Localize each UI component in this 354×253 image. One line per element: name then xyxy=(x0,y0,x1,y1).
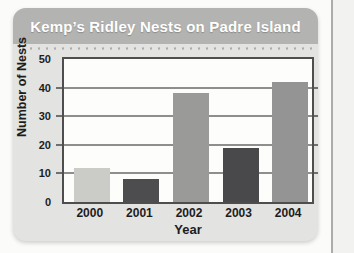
y-tick-label-50: 50 xyxy=(39,53,51,65)
page-edge-line xyxy=(331,0,333,253)
x-tick-label-2000: 2000 xyxy=(76,206,103,220)
bar-2004 xyxy=(272,82,308,202)
tick-right-30 xyxy=(314,115,318,117)
y-tick-label-30: 30 xyxy=(39,110,51,122)
chart-title-bar: Kemp’s Ridley Nests on Padre Island xyxy=(13,8,318,44)
textbook-page: Kemp’s Ridley Nests on Padre Island Numb… xyxy=(0,0,354,253)
x-tick-label-2003: 2003 xyxy=(225,206,252,220)
tick-right-10 xyxy=(314,172,318,174)
x-tick-label-2001: 2001 xyxy=(126,206,153,220)
y-tick-label-40: 40 xyxy=(39,82,51,94)
x-tick-label-2004: 2004 xyxy=(275,206,302,220)
bar-2001 xyxy=(123,179,159,202)
y-tick-label-10: 10 xyxy=(39,167,51,179)
bar-2003 xyxy=(223,148,259,202)
tick-left-20 xyxy=(56,144,62,146)
chart-card: Kemp’s Ridley Nests on Padre Island Numb… xyxy=(13,8,318,241)
chart-title: Kemp’s Ridley Nests on Padre Island xyxy=(30,18,301,35)
tick-right-40 xyxy=(314,87,318,89)
y-tick-label-0: 0 xyxy=(45,196,51,208)
y-axis-tick-labels: 01020304050 xyxy=(13,57,58,204)
page-edge-strip xyxy=(333,0,354,253)
x-axis-tick-labels: 20002001200220032004 xyxy=(62,206,314,221)
dotted-separator xyxy=(19,47,312,50)
y-tick-label-20: 20 xyxy=(39,139,51,151)
tick-left-30 xyxy=(56,115,62,117)
x-tick-label-2002: 2002 xyxy=(176,206,203,220)
x-axis-title: Year xyxy=(62,222,314,237)
tick-left-10 xyxy=(56,172,62,174)
bar-2000 xyxy=(74,168,110,202)
bar-2002 xyxy=(173,93,209,202)
plot-area xyxy=(62,57,314,204)
tick-right-20 xyxy=(314,144,318,146)
tick-left-40 xyxy=(56,87,62,89)
